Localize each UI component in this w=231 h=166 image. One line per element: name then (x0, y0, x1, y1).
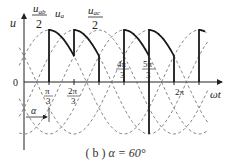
svg-text:2π: 2π (68, 86, 78, 96)
svg-text:2: 2 (36, 17, 42, 31)
waveform-diagram: u 0 ωt uab 2 ua uac 2 π 3 2π 3 4π 3 5π 3… (0, 0, 231, 166)
svg-text:uab: uab (33, 2, 46, 16)
label-ua: ua (55, 7, 65, 20)
svg-text:3: 3 (146, 70, 151, 80)
tick-label-pi-3: π 3 (44, 86, 53, 106)
svg-text:2: 2 (92, 18, 98, 32)
figure-caption: ( b ) α = 60° (0, 146, 231, 161)
svg-text:3: 3 (46, 96, 51, 106)
tick-label-2pi: 2π (175, 87, 185, 97)
svg-text:3: 3 (120, 70, 125, 80)
tick-label-5pi-3: 5π 3 (142, 59, 155, 80)
tick-label-2pi-3: 2π 3 (67, 86, 80, 106)
label-uac-half: uac 2 (88, 4, 103, 32)
svg-text:3: 3 (71, 96, 76, 106)
origin-label: 0 (13, 77, 18, 88)
y-axis-label: u (10, 16, 16, 30)
svg-text:5π: 5π (143, 59, 153, 69)
svg-text:uac: uac (88, 4, 101, 17)
svg-text:α: α (31, 105, 37, 116)
label-uab-half: uab 2 (32, 2, 47, 31)
x-axis-label: ωt (210, 88, 222, 100)
svg-text:π: π (45, 86, 50, 96)
svg-text:4π: 4π (117, 59, 127, 69)
